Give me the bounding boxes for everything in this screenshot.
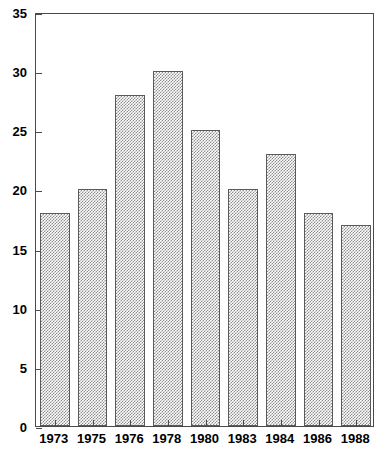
x-axis-tick-label: 1983 (228, 431, 257, 446)
bar (228, 189, 257, 426)
y-axis-tick-mark (36, 428, 42, 429)
x-axis-tick-label: 1986 (303, 431, 332, 446)
x-axis-tick-label: 1980 (190, 431, 219, 446)
bar-chart-figure: 05101520253035 1973197519761978198019831… (0, 0, 384, 455)
bar (78, 189, 107, 426)
bar (115, 95, 144, 426)
x-axis-tick-label: 1988 (341, 431, 370, 446)
x-axis-tick-label: 1976 (115, 431, 144, 446)
plot-area (35, 13, 374, 427)
y-axis-tick-label: 30 (13, 65, 27, 80)
x-axis-tick-label: 1978 (152, 431, 181, 446)
bar (341, 225, 370, 426)
bars-layer (36, 14, 373, 426)
y-axis: 05101520253035 (0, 0, 35, 455)
y-axis-tick-label: 10 (13, 301, 27, 316)
x-axis-tick-label: 1973 (39, 431, 68, 446)
y-axis-tick-label: 35 (13, 6, 27, 21)
x-axis-tick-label: 1984 (265, 431, 294, 446)
x-axis-tick-label: 1975 (77, 431, 106, 446)
bar (153, 71, 182, 426)
bar (304, 213, 333, 426)
y-axis-tick-label: 15 (13, 242, 27, 257)
bar (40, 213, 69, 426)
y-axis-tick-label: 0 (20, 420, 27, 435)
x-axis: 197319751976197819801983198419861988 (35, 431, 374, 451)
y-axis-tick-label: 5 (20, 360, 27, 375)
bar (266, 154, 295, 426)
y-axis-tick-label: 20 (13, 183, 27, 198)
bar (191, 130, 220, 426)
y-axis-tick-label: 25 (13, 124, 27, 139)
